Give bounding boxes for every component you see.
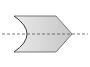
concave-chevron-diagram xyxy=(0,0,90,67)
